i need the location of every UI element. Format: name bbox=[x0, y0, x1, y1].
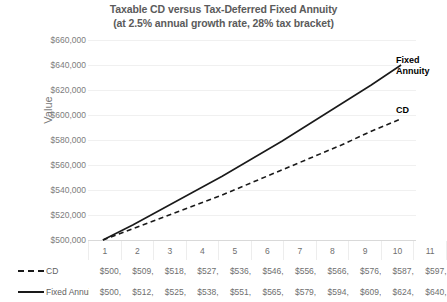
table-cell: $512, bbox=[121, 281, 154, 302]
table-cell: $538, bbox=[186, 281, 219, 302]
table-column-header: 5 bbox=[219, 241, 252, 260]
table-cell: $609, bbox=[349, 281, 382, 302]
table-column-header: 2 bbox=[121, 241, 154, 260]
table-cell: $576, bbox=[349, 260, 382, 281]
table-cell: $525, bbox=[154, 281, 187, 302]
table-header-corner bbox=[0, 241, 89, 260]
series-label-cd: CD bbox=[396, 105, 409, 116]
table-row: Fixed Annuity$500,$512,$525,$538,$551,$5… bbox=[0, 281, 447, 302]
table-column-header: 6 bbox=[251, 241, 284, 260]
table-cell: $500, bbox=[89, 260, 122, 281]
table-column-header: 11 bbox=[414, 241, 447, 260]
table-cell: $587, bbox=[381, 260, 414, 281]
legend-entry-cd[interactable]: CD bbox=[0, 260, 89, 281]
table-cell: $518, bbox=[154, 260, 187, 281]
chart-container: Taxable CD versus Tax-Deferred Fixed Ann… bbox=[0, 0, 447, 302]
table-cell: $536, bbox=[219, 260, 252, 281]
table-cell: $579, bbox=[284, 281, 317, 302]
table-cell: $500, bbox=[89, 281, 122, 302]
line-cd bbox=[103, 119, 401, 240]
table-column-header: 7 bbox=[284, 241, 317, 260]
legend-marker-solid bbox=[18, 291, 44, 293]
table-cell: $640, bbox=[414, 281, 447, 302]
table-header-row: 1234567891011 bbox=[0, 241, 447, 260]
table-cell: $565, bbox=[251, 281, 284, 302]
data-table: 1234567891011CD$500,$509,$518,$527,$536,… bbox=[0, 241, 447, 302]
table-cell: $624, bbox=[381, 281, 414, 302]
table-cell: $597, bbox=[414, 260, 447, 281]
table-cell: $527, bbox=[186, 260, 219, 281]
table-row: CD$500,$509,$518,$527,$536,$546,$556,$56… bbox=[0, 260, 447, 281]
series-label-fixed-annuity: Fixed Annuity bbox=[396, 55, 430, 77]
series-label-fixed-annuity-line1: Fixed bbox=[396, 55, 420, 65]
table-cell: $556, bbox=[284, 260, 317, 281]
table-column-header: 3 bbox=[154, 241, 187, 260]
line-fixed-annuity bbox=[103, 65, 401, 240]
series-label-fixed-annuity-line2: Annuity bbox=[396, 66, 430, 76]
table-cell: $594, bbox=[316, 281, 349, 302]
table-cell: $566, bbox=[316, 260, 349, 281]
table-cell: $551, bbox=[219, 281, 252, 302]
table-cell: $546, bbox=[251, 260, 284, 281]
table-cell: $509, bbox=[121, 260, 154, 281]
table-column-header: 4 bbox=[186, 241, 219, 260]
table-column-header: 9 bbox=[349, 241, 382, 260]
table-column-header: 10 bbox=[381, 241, 414, 260]
table-column-header: 1 bbox=[89, 241, 122, 260]
table-column-header: 8 bbox=[316, 241, 349, 260]
legend-marker-dashed bbox=[18, 270, 44, 272]
legend-entry-fixed-annuity[interactable]: Fixed Annuity bbox=[0, 281, 89, 302]
